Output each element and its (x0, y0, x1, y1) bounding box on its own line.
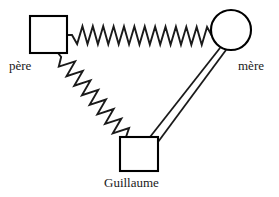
connector-layer (58, 26, 226, 142)
node-layer (30, 10, 251, 171)
node-label-pere: père (9, 59, 31, 72)
node-label-guillaume: Guillaume (104, 176, 159, 189)
node-mere-circle (211, 10, 251, 50)
spring-mass-diagram: père mère Guillaume (0, 0, 279, 197)
node-label-mere: mère (238, 59, 264, 72)
rod-guillaume-mere (150, 48, 226, 142)
node-guillaume-square (120, 137, 158, 171)
spring-pere-guillaume (58, 53, 129, 137)
node-pere-square (30, 16, 67, 53)
rod-line-upper (150, 48, 220, 137)
spring-pere-mere (67, 26, 212, 45)
diagram-canvas (0, 0, 279, 197)
rod-line-lower (158, 50, 226, 142)
